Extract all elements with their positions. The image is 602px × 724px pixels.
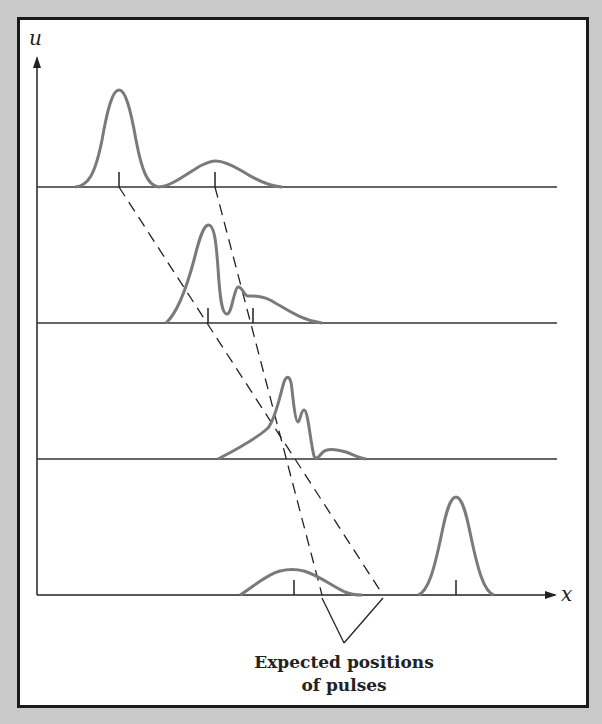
- panel-1-short-pulse: [158, 161, 282, 187]
- panel-3-interacting-pulse: [218, 377, 366, 459]
- panel-1-tall-pulse: [75, 90, 158, 187]
- callout-line-left: [322, 598, 344, 643]
- pulse-diagram: u x Expected positions of pulses: [0, 0, 602, 724]
- y-axis-label: u: [29, 26, 42, 50]
- expected-path-short-pulse: [215, 187, 322, 595]
- panel-4-short-pulse: [240, 570, 362, 596]
- caption-line-1: Expected positions: [254, 652, 433, 672]
- caption-line-2: of pulses: [301, 675, 386, 695]
- panel-2-interacting-pulse: [166, 225, 322, 323]
- expected-path-tall-pulse: [119, 187, 383, 595]
- x-axis-label: x: [561, 582, 572, 606]
- callout-line-right: [344, 598, 383, 643]
